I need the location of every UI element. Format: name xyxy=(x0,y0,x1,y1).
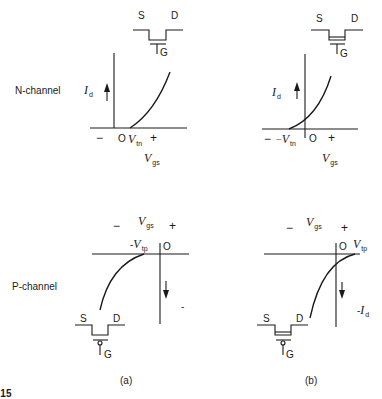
vtn-label: Vtn xyxy=(128,133,142,147)
gate-label: G xyxy=(340,49,348,59)
neg-vtn-label: −Vtn xyxy=(276,133,296,147)
vgs-axis-label: Vgs xyxy=(144,152,160,166)
gate-label: G xyxy=(104,350,112,360)
caption-b: (b) xyxy=(305,376,317,386)
drain-label: D xyxy=(351,14,358,24)
source-label: S xyxy=(80,314,87,324)
plus-sign: + xyxy=(150,132,157,144)
vgs-axis-label: Vgs xyxy=(322,152,338,166)
neg-id-axis-label: - xyxy=(181,300,184,312)
plus-sign: + xyxy=(328,132,335,144)
minus-sign: − xyxy=(96,132,103,144)
minus-sign: − xyxy=(264,133,271,145)
origin-label: O xyxy=(309,134,317,144)
source-label: S xyxy=(263,314,270,324)
row-label-p-channel: P-channel xyxy=(12,282,57,292)
plus-sign: + xyxy=(169,220,176,232)
gate-label: G xyxy=(160,48,168,58)
id-axis-label: Id xyxy=(272,86,281,100)
gate-label: G xyxy=(286,350,294,360)
vtp-label: Vtp xyxy=(353,238,367,252)
p-channel-a-symbol xyxy=(75,325,125,355)
neg-id-axis-label: -Id xyxy=(357,304,369,318)
p-channel-b-plot xyxy=(264,243,360,327)
plus-sign: + xyxy=(341,222,348,234)
origin-label: O xyxy=(339,242,347,252)
drain-label: D xyxy=(296,314,303,324)
minus-sign: − xyxy=(286,222,293,234)
drain-label: D xyxy=(113,314,120,324)
drain-label: D xyxy=(171,11,178,21)
vgs-axis-label: Vgs xyxy=(306,216,322,230)
p-channel-a-plot xyxy=(92,243,189,324)
n-channel-a-symbol xyxy=(133,30,183,54)
source-label: S xyxy=(138,11,145,21)
vgs-axis-label: Vgs xyxy=(138,215,154,229)
p-channel-b-symbol xyxy=(257,325,308,355)
origin-label: O xyxy=(118,134,126,144)
caption-a: (a) xyxy=(120,376,132,386)
neg-vtp-label: -Vtp xyxy=(130,238,148,252)
figure-number-fragment: 4.15 xyxy=(0,389,11,399)
n-channel-b-symbol xyxy=(311,30,363,54)
minus-sign: − xyxy=(113,220,120,232)
id-axis-label: Id xyxy=(84,84,93,98)
row-label-n-channel: N-channel xyxy=(15,86,61,96)
source-label: S xyxy=(316,14,323,24)
origin-label: O xyxy=(163,242,171,252)
